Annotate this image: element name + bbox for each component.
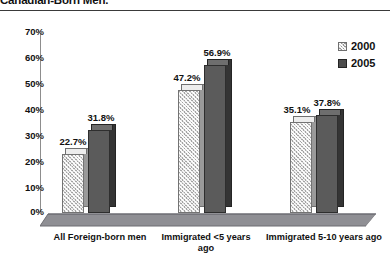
bar-front-face (204, 65, 226, 213)
bar-front-face (316, 115, 338, 213)
bar-front-face (88, 130, 110, 213)
chart-floor (40, 211, 376, 227)
y-axis-tick-30: 30% (0, 131, 44, 141)
y-axis-tick-10: 10% (0, 183, 44, 193)
bar-value-2005-all-foreign-born-men: 31.8% (78, 112, 124, 123)
chart-title: Canadian-Born Men. (0, 0, 210, 7)
x-axis-label-immigrated-5-10-years: Immigrated 5-10 years ago (266, 232, 382, 243)
bar-2000-all-foreign-born-men[interactable] (62, 154, 84, 213)
legend-label-2000: 2000 (351, 40, 375, 52)
y-axis-tick-mark (40, 188, 44, 189)
bar-2005-all-foreign-born-men[interactable] (88, 130, 110, 213)
bar-front-face (290, 122, 312, 213)
bar-side-face (110, 124, 116, 207)
y-axis-tick-mark (40, 58, 44, 59)
y-axis-tick-50: 50% (0, 79, 44, 89)
y-axis-tick-40: 40% (0, 105, 44, 115)
bar-2005-immigrated-under-5-years[interactable] (204, 65, 226, 213)
legend-entry-2005[interactable]: 2005 (338, 57, 390, 74)
y-axis-tick-60: 60% (0, 53, 44, 63)
x-axis-label-immigrated-under-5-years: Immigrated <5 years ago (154, 232, 258, 254)
chart-legend: 2000 2005 (338, 40, 390, 74)
title-divider (0, 10, 390, 11)
legend-swatch-2000-icon (338, 42, 347, 51)
bar-front-face (178, 90, 200, 213)
y-axis-tick-mark (40, 110, 44, 111)
bar-2005-immigrated-5-10-years[interactable] (316, 115, 338, 213)
bar-2000-immigrated-5-10-years[interactable] (290, 122, 312, 213)
y-axis-tick-70: 70% (0, 27, 44, 37)
y-axis-tick-mark (40, 32, 44, 33)
y-axis-tick-mark (40, 136, 44, 137)
legend-label-2005: 2005 (351, 57, 375, 69)
bar-value-2005-immigrated-5-10-years: 37.8% (304, 97, 350, 108)
x-axis-label-all-foreign-born-men: All Foreign-born men (36, 232, 164, 243)
bar-side-face (226, 59, 232, 207)
y-axis-tick-0: 0% (0, 207, 44, 217)
bar-front-face (62, 154, 84, 213)
legend-entry-2000[interactable]: 2000 (338, 40, 390, 57)
legend-swatch-2005-icon (338, 59, 347, 68)
bar-side-face (338, 109, 344, 207)
y-axis-tick-mark (40, 84, 44, 85)
bar-value-2005-immigrated-under-5-years: 56.9% (194, 47, 240, 58)
bar-2000-immigrated-under-5-years[interactable] (178, 90, 200, 213)
y-axis-tick-mark (40, 162, 44, 163)
chart-plot-area: 70% 60% 50% 40% 30% 20% 10% 0% (0, 12, 390, 250)
y-axis-tick-20: 20% (0, 157, 44, 167)
